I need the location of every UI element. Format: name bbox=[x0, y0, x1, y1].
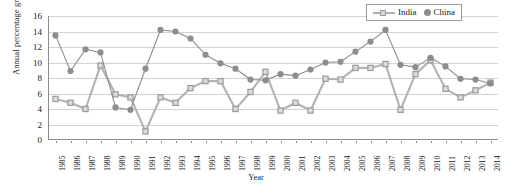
series-layer bbox=[48, 16, 498, 140]
data-point-china bbox=[292, 73, 298, 79]
data-point-china bbox=[322, 59, 328, 65]
x-tick-label: 2013 bbox=[479, 156, 487, 171]
legend-label-india: India bbox=[398, 8, 417, 17]
y-tick-label: 2 bbox=[0, 120, 42, 129]
data-point-china bbox=[232, 66, 238, 72]
data-point-india bbox=[98, 63, 103, 68]
data-point-india bbox=[203, 79, 208, 84]
x-tick-mark bbox=[221, 141, 222, 143]
x-tick-label: 1988 bbox=[104, 156, 112, 171]
x-tick-mark bbox=[71, 141, 72, 143]
data-point-china bbox=[67, 68, 73, 74]
data-point-china bbox=[187, 35, 193, 41]
x-tick-label: 2014 bbox=[494, 156, 502, 171]
data-point-china bbox=[157, 27, 163, 33]
data-point-india bbox=[323, 76, 328, 81]
x-tick-mark bbox=[491, 141, 492, 143]
x-tick-mark bbox=[431, 141, 432, 143]
circle-marker-icon bbox=[424, 9, 431, 16]
data-point-india bbox=[188, 85, 193, 90]
data-point-china bbox=[202, 52, 208, 58]
x-tick-mark bbox=[311, 141, 312, 143]
x-tick-label: 1989 bbox=[119, 156, 127, 171]
x-tick-mark bbox=[176, 141, 177, 143]
data-point-china bbox=[277, 71, 283, 77]
data-point-china bbox=[337, 59, 343, 65]
x-tick-label: 1998 bbox=[254, 156, 262, 171]
y-tick-label: 0 bbox=[0, 136, 42, 145]
data-point-india bbox=[173, 100, 178, 105]
x-tick-label: 1992 bbox=[164, 156, 172, 171]
x-tick-label: 2008 bbox=[404, 156, 412, 171]
x-tick-label: 2001 bbox=[299, 156, 307, 171]
x-tick-label: 2005 bbox=[359, 156, 367, 171]
data-point-china bbox=[217, 60, 223, 66]
data-point-china bbox=[442, 63, 448, 69]
x-tick-mark bbox=[341, 141, 342, 143]
data-point-india bbox=[398, 107, 403, 112]
data-point-china bbox=[472, 76, 478, 82]
series-line-india bbox=[56, 60, 491, 131]
y-tick-label: 8 bbox=[0, 74, 42, 83]
data-point-india bbox=[353, 65, 358, 70]
x-tick-label: 1986 bbox=[74, 156, 82, 171]
x-tick-mark bbox=[206, 141, 207, 143]
x-tick-mark bbox=[326, 141, 327, 143]
data-point-india bbox=[383, 61, 388, 66]
data-point-china bbox=[247, 76, 253, 82]
line-square-marker-icon bbox=[373, 8, 395, 18]
data-point-china bbox=[307, 66, 313, 72]
x-tick-mark bbox=[446, 141, 447, 143]
data-point-china bbox=[172, 28, 178, 34]
x-tick-label: 1997 bbox=[239, 156, 247, 171]
y-tick-label: 16 bbox=[0, 12, 42, 21]
x-tick-mark bbox=[236, 141, 237, 143]
data-point-china bbox=[82, 46, 88, 52]
x-tick-mark bbox=[281, 141, 282, 143]
x-tick-mark bbox=[251, 141, 252, 143]
data-point-india bbox=[113, 92, 118, 97]
x-tick-mark bbox=[131, 141, 132, 143]
x-tick-label: 1990 bbox=[134, 156, 142, 171]
data-point-china bbox=[112, 104, 118, 110]
data-point-india bbox=[278, 108, 283, 113]
x-axis-title: Year bbox=[0, 172, 512, 182]
x-tick-mark bbox=[266, 141, 267, 143]
data-point-india bbox=[308, 108, 313, 113]
data-point-china bbox=[352, 49, 358, 55]
data-point-china bbox=[382, 27, 388, 33]
data-point-india bbox=[443, 86, 448, 91]
data-point-india bbox=[293, 100, 298, 105]
x-tick-label: 1996 bbox=[224, 156, 232, 171]
data-point-china bbox=[397, 62, 403, 68]
x-tick-label: 2003 bbox=[329, 156, 337, 171]
x-tick-mark bbox=[86, 141, 87, 143]
y-tick-label: 6 bbox=[0, 89, 42, 98]
data-point-india bbox=[83, 106, 88, 111]
legend-item-india[interactable]: India bbox=[373, 8, 417, 18]
chart-legend: India China bbox=[366, 4, 462, 21]
data-point-india bbox=[233, 106, 238, 111]
x-tick-mark bbox=[461, 141, 462, 143]
x-tick-label: 1985 bbox=[59, 156, 67, 171]
x-tick-label: 1993 bbox=[179, 156, 187, 171]
plot-area bbox=[48, 16, 498, 140]
y-tick-label: 10 bbox=[0, 58, 42, 67]
x-tick-mark bbox=[56, 141, 57, 143]
x-tick-mark bbox=[191, 141, 192, 143]
x-tick-label: 2007 bbox=[389, 156, 397, 171]
legend-item-china[interactable]: China bbox=[424, 8, 456, 17]
data-point-india bbox=[53, 96, 58, 101]
x-tick-mark bbox=[101, 141, 102, 143]
y-tick-label: 12 bbox=[0, 43, 42, 52]
data-point-china bbox=[97, 49, 103, 55]
legend-label-china: China bbox=[434, 8, 456, 17]
y-tick-label: 14 bbox=[0, 27, 42, 36]
x-tick-mark bbox=[476, 141, 477, 143]
data-point-india bbox=[68, 100, 73, 105]
data-point-india bbox=[458, 95, 463, 100]
x-tick-label: 2004 bbox=[344, 156, 352, 171]
x-axis-ticks: 1985198619871988198919901991199219931994… bbox=[48, 141, 498, 173]
data-point-china bbox=[487, 80, 493, 86]
x-tick-mark bbox=[386, 141, 387, 143]
